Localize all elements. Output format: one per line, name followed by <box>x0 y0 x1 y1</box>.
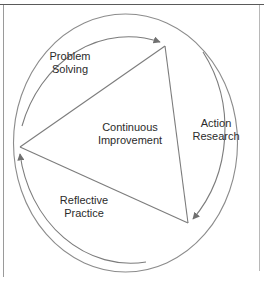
segment-label-problem-solving: Problem Solving <box>34 50 106 76</box>
segment-label-action-research: Action Research <box>180 117 252 143</box>
center-label-continuous-improvement: Continuous Improvement <box>82 121 178 147</box>
diagram-canvas: Problem Solving Action Research Continuo… <box>0 0 264 283</box>
segment-label-reflective-practice: Reflective Practice <box>44 194 124 220</box>
